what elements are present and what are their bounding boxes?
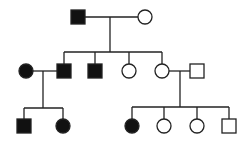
pedigree-chart — [0, 0, 250, 142]
unaffected-female-i-2 — [138, 10, 152, 24]
unaffected-female-iii-5 — [190, 119, 204, 133]
affected-female-iii-2 — [56, 119, 70, 133]
unaffected-male-ii-spouse-2 — [190, 64, 204, 78]
unaffected-female-ii-4 — [155, 64, 169, 78]
unaffected-female-ii-3 — [122, 64, 136, 78]
affected-male-iii-1 — [17, 119, 31, 133]
affected-female-ii-spouse-1 — [19, 64, 33, 78]
affected-male-ii-1 — [57, 64, 71, 78]
affected-female-iii-3 — [125, 119, 139, 133]
affected-male-i-1 — [71, 10, 85, 24]
affected-male-ii-2 — [88, 64, 102, 78]
unaffected-male-iii-6 — [222, 119, 236, 133]
unaffected-female-iii-4 — [157, 119, 171, 133]
